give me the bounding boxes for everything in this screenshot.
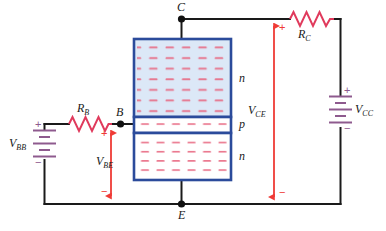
node-label-base: B	[116, 106, 123, 118]
resistor-rc-symbol	[290, 12, 334, 26]
region-label-top-n: n	[239, 72, 245, 84]
voltage-label-vce-sub: CE	[255, 110, 265, 119]
polarity-plus-vbe: +	[101, 128, 107, 139]
node-label-collector: C	[177, 1, 185, 13]
region-label-bottom-n: n	[239, 150, 245, 162]
voltage-label-vce: VCE	[248, 104, 266, 119]
resistor-label-rc: RC	[298, 28, 311, 43]
resistor-label-rb-sub: B	[84, 108, 89, 117]
battery-vcc-symbol	[329, 97, 352, 123]
polarity-minus-vce: −	[279, 187, 285, 198]
region-label-middle-p: p	[239, 118, 245, 130]
polarity-minus-vcc: −	[344, 123, 350, 134]
battery-vbb-symbol	[33, 131, 56, 157]
transistor-block	[134, 39, 231, 180]
node-dot-emitter	[178, 200, 185, 207]
polarity-plus-vbb: +	[35, 119, 41, 130]
voltage-label-vbe-sub: BE	[103, 161, 113, 170]
polarity-minus-vbe: −	[101, 186, 107, 197]
voltage-label-vbe: VBE	[96, 155, 113, 170]
polarity-plus-vcc: +	[344, 85, 350, 96]
source-label-vcc-sub: CC	[362, 109, 373, 118]
polarity-minus-vbb: −	[35, 157, 41, 168]
resistor-label-rc-sub: C	[305, 34, 310, 43]
source-label-vbb: VBB	[9, 137, 26, 152]
circuit-diagram: C B E n p n RB RC VBB VCC VBE VCE + − + …	[0, 0, 386, 231]
circuit-schematic-svg	[0, 0, 386, 231]
node-dot-collector	[178, 15, 185, 22]
resistor-label-rb: RB	[77, 102, 89, 117]
node-label-emitter: E	[178, 209, 185, 221]
polarity-plus-vce: +	[279, 22, 285, 33]
source-label-vcc: VCC	[355, 103, 373, 118]
node-dot-base	[117, 120, 124, 127]
source-label-vbb-sub: BB	[16, 143, 26, 152]
